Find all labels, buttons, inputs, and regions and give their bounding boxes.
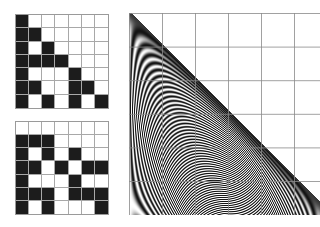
grid-cell	[69, 175, 82, 188]
grid-cell	[16, 28, 29, 41]
grid-cell	[29, 201, 42, 214]
grid-cell	[16, 201, 29, 214]
grid-cell	[16, 68, 29, 81]
grid-cell	[16, 148, 29, 161]
grid-cell	[16, 188, 29, 201]
grid-cell	[29, 135, 42, 148]
grid-cell	[69, 122, 82, 135]
grid-cell	[95, 81, 108, 94]
grid-cell	[16, 122, 29, 135]
grid-cell	[42, 15, 55, 28]
grid-cell	[55, 81, 68, 94]
grid-cell	[55, 188, 68, 201]
grid-cell	[69, 95, 82, 108]
grid-cell	[69, 161, 82, 174]
grid-cell	[16, 15, 29, 28]
grid-cell	[95, 161, 108, 174]
grid-cell	[95, 95, 108, 108]
grid-cell	[95, 175, 108, 188]
grid-cell	[82, 175, 95, 188]
grid-cell	[16, 135, 29, 148]
grid-cell	[82, 28, 95, 41]
grid-cell	[69, 68, 82, 81]
grid-cell	[16, 81, 29, 94]
grid-cell	[82, 81, 95, 94]
grid-cell	[16, 42, 29, 55]
grid-cell	[29, 95, 42, 108]
grid-cell	[95, 201, 108, 214]
grid-cell	[95, 15, 108, 28]
grid-cell	[95, 68, 108, 81]
grid-cell	[95, 122, 108, 135]
grid-cell	[29, 188, 42, 201]
grid-cell	[69, 55, 82, 68]
grid-cell	[42, 161, 55, 174]
grid-cell	[95, 148, 108, 161]
grid-cell	[95, 42, 108, 55]
grid-cell	[82, 95, 95, 108]
grid-cell	[95, 55, 108, 68]
grid-cell	[69, 28, 82, 41]
grid-cell	[69, 81, 82, 94]
grid-cell	[42, 135, 55, 148]
grid-cell	[55, 28, 68, 41]
grid-cell	[29, 161, 42, 174]
grid-cell	[55, 161, 68, 174]
grid-cell	[29, 175, 42, 188]
pascal-mod2-grid-bottom	[15, 121, 109, 215]
grid-cell	[69, 42, 82, 55]
grid-cell	[16, 95, 29, 108]
grid-cell	[55, 135, 68, 148]
grid-cell	[82, 15, 95, 28]
grid-cell	[55, 175, 68, 188]
grid-cell	[82, 188, 95, 201]
grid-cell	[55, 148, 68, 161]
fringe-gridlines	[129, 13, 320, 215]
grid-cell	[82, 42, 95, 55]
grid-cell	[29, 42, 42, 55]
grid-cell	[29, 68, 42, 81]
grid-cell	[55, 95, 68, 108]
grid-cell	[16, 161, 29, 174]
grid-cell	[42, 42, 55, 55]
grid-cell	[55, 42, 68, 55]
grid-cell	[42, 28, 55, 41]
grid-cell	[55, 201, 68, 214]
grid-cell	[42, 201, 55, 214]
grid-cell	[69, 15, 82, 28]
grid-cell	[42, 68, 55, 81]
grid-cell	[42, 81, 55, 94]
grid-cell	[55, 68, 68, 81]
grid-cell	[16, 175, 29, 188]
grid-cell	[42, 122, 55, 135]
grid-cell	[29, 55, 42, 68]
pascal-mod2-grid-top	[15, 14, 109, 109]
grid-cell	[82, 122, 95, 135]
grid-cell	[82, 201, 95, 214]
grid-cell	[69, 148, 82, 161]
grid-cell	[42, 188, 55, 201]
grid-cell	[29, 148, 42, 161]
grid-cell	[29, 81, 42, 94]
grid-cell	[55, 122, 68, 135]
grid-cell	[42, 95, 55, 108]
grid-cell	[82, 161, 95, 174]
grid-cell	[82, 135, 95, 148]
grid-cell	[42, 175, 55, 188]
grid-cell	[55, 55, 68, 68]
grid-cell	[69, 201, 82, 214]
grid-cell	[16, 55, 29, 68]
grid-cell	[95, 188, 108, 201]
grid-cell	[29, 15, 42, 28]
grid-cell	[82, 68, 95, 81]
grid-cell	[29, 122, 42, 135]
grid-cell	[42, 148, 55, 161]
grid-cell	[82, 55, 95, 68]
grid-cell	[69, 135, 82, 148]
grid-cell	[82, 148, 95, 161]
grid-cell	[29, 28, 42, 41]
grid-cell	[95, 135, 108, 148]
grid-cell	[42, 55, 55, 68]
grid-cell	[55, 15, 68, 28]
grid-cell	[95, 28, 108, 41]
